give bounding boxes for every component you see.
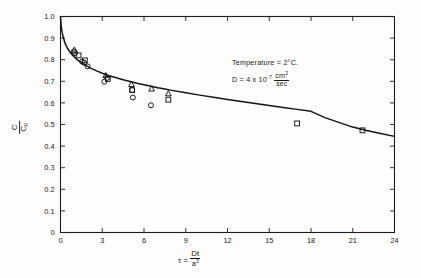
data-point-circle bbox=[148, 103, 153, 108]
x-axis-equals: = bbox=[183, 256, 188, 265]
y-axis-denominator: C0 bbox=[21, 121, 30, 134]
figure-page: 03691215182124 00.10.20.30.40.50.60.70.8… bbox=[0, 0, 421, 278]
x-tick-label: 0 bbox=[58, 236, 62, 245]
y-tick-label: 0.6 bbox=[44, 99, 54, 108]
units-numerator-exponent: 2 bbox=[285, 70, 288, 76]
diffusion-decay-chart: 03691215182124 00.10.20.30.40.50.60.70.8… bbox=[0, 0, 421, 278]
diffusivity-exponent: -7 bbox=[267, 74, 272, 80]
data-point-triangle bbox=[166, 91, 172, 96]
y-axis-tick-labels: 00.10.20.30.40.50.60.70.80.91.0 bbox=[44, 12, 54, 237]
annotation-diffusivity: D = 4 x 10-7 cm2 sec bbox=[232, 70, 298, 88]
y-axis-denominator-subscript: 0 bbox=[23, 123, 29, 126]
temperature-unit: °C. bbox=[288, 58, 299, 67]
annotation-temperature: Temperature = 2°C. bbox=[232, 55, 298, 70]
diffusivity-units-fraction: cm2 sec bbox=[274, 71, 289, 88]
x-tick-label: 9 bbox=[184, 236, 188, 245]
y-axis-title: C C0 bbox=[14, 118, 27, 137]
y-tick-label: 0.3 bbox=[44, 163, 54, 172]
x-axis-tick-labels: 03691215182124 bbox=[58, 236, 398, 245]
data-point-circle bbox=[130, 95, 135, 100]
x-tick-label: 6 bbox=[142, 236, 146, 245]
x-axis-title-fraction: Dt a2 bbox=[190, 250, 200, 268]
chart-annotation: Temperature = 2°C. D = 4 x 10-7 cm2 sec bbox=[232, 55, 298, 88]
y-tick-label: 0.8 bbox=[44, 55, 54, 64]
units-denominator: sec bbox=[274, 81, 289, 88]
data-point-square bbox=[166, 97, 171, 102]
diffusivity-coefficient: 4 x 10 bbox=[246, 75, 267, 84]
y-tick-label: 0.1 bbox=[44, 207, 54, 216]
y-tick-label: 0.4 bbox=[44, 142, 54, 151]
x-axis-denominator: a2 bbox=[190, 259, 200, 268]
x-axis-denominator-exponent: 2 bbox=[196, 258, 199, 264]
diffusivity-label: D bbox=[232, 75, 237, 84]
data-point-square bbox=[295, 121, 300, 126]
y-tick-label: 1.0 bbox=[44, 12, 54, 21]
diffusivity-equals: = bbox=[240, 75, 244, 84]
x-tick-label: 12 bbox=[223, 236, 231, 245]
x-axis-title: τ = Dt a2 bbox=[178, 250, 200, 268]
x-tick-label: 24 bbox=[390, 236, 398, 245]
temperature-equals: = bbox=[277, 58, 281, 67]
x-axis-symbol: τ bbox=[178, 256, 181, 265]
data-point-markers bbox=[71, 47, 365, 133]
x-tick-label: 15 bbox=[265, 236, 273, 245]
temperature-label: Temperature bbox=[232, 58, 275, 67]
x-tick-label: 18 bbox=[307, 236, 315, 245]
x-tick-label: 3 bbox=[100, 236, 104, 245]
x-tick-label: 21 bbox=[349, 236, 357, 245]
y-tick-label: 0.2 bbox=[44, 185, 54, 194]
y-tick-label: 0.7 bbox=[44, 77, 54, 86]
y-tick-label: 0.9 bbox=[44, 34, 54, 43]
y-axis-title-fraction: C C0 bbox=[11, 121, 30, 134]
y-tick-label: 0.5 bbox=[44, 120, 54, 129]
y-tick-label: 0 bbox=[50, 228, 54, 237]
